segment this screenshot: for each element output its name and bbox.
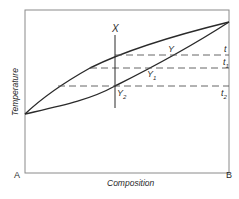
component-a-label: A <box>14 170 20 180</box>
label-x: X <box>111 23 119 34</box>
label-t: t <box>224 44 227 54</box>
phase-diagram: X Y Y1 Y2 t t1 t2 Temperature Compositio… <box>0 0 239 199</box>
x-axis-title: Composition <box>107 178 155 188</box>
plot-frame <box>25 10 229 173</box>
component-b-label: B <box>226 170 232 180</box>
label-y1: Y1 <box>147 69 156 81</box>
label-y2: Y2 <box>117 88 127 100</box>
y-axis-title: Temperature <box>10 68 20 116</box>
label-y: Y <box>168 44 175 54</box>
label-t1: t1 <box>223 57 229 69</box>
label-t2: t2 <box>221 88 228 100</box>
